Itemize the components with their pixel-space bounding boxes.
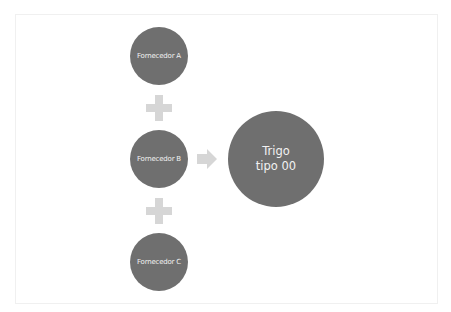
plus-icon	[146, 95, 172, 121]
supplier-b-label: Fornecedor B	[137, 155, 181, 163]
supplier-a-label: Fornecedor A	[137, 52, 181, 60]
product-node: Trigo tipo 00	[228, 111, 324, 207]
supplier-b-node: Fornecedor B	[130, 130, 188, 188]
arrow-right-icon	[197, 149, 217, 169]
supplier-c-node: Fornecedor C	[130, 233, 188, 291]
supplier-a-node: Fornecedor A	[130, 27, 188, 85]
plus-icon	[146, 198, 172, 224]
product-label: Trigo tipo 00	[256, 144, 296, 174]
diagram-frame	[15, 14, 438, 304]
supplier-c-label: Fornecedor C	[137, 258, 181, 266]
